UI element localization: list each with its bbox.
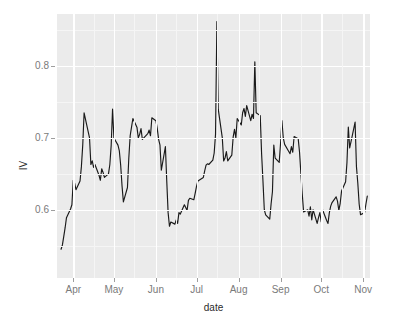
x-axis-tick-labels: AprMayJunJulAugSepOctNov bbox=[0, 284, 396, 298]
x-axis-tick-label: Jun bbox=[136, 284, 176, 296]
gridline-major-vertical bbox=[281, 14, 282, 278]
y-axis-tick-label: 0.7 bbox=[9, 133, 49, 143]
gridline-major-horizontal bbox=[57, 210, 370, 211]
plot-panel bbox=[57, 14, 370, 278]
gridline-major-vertical bbox=[239, 14, 240, 278]
gridline-minor-vertical bbox=[259, 14, 260, 278]
gridline-major-vertical bbox=[156, 14, 157, 278]
gridline-minor-vertical bbox=[301, 14, 302, 278]
gridline-minor-vertical bbox=[176, 14, 177, 278]
x-axis-tick-label: Nov bbox=[343, 284, 383, 296]
gridline-major-vertical bbox=[73, 14, 74, 278]
y-axis-tick-mark bbox=[51, 210, 55, 211]
gridline-minor-vertical bbox=[342, 14, 343, 278]
series-line-iv bbox=[57, 14, 370, 278]
gridline-major-vertical bbox=[114, 14, 115, 278]
y-axis-tick-mark bbox=[51, 66, 55, 67]
x-axis-tick-label: May bbox=[94, 284, 134, 296]
gridline-major-vertical bbox=[197, 14, 198, 278]
x-axis-tick-label: Oct bbox=[301, 284, 341, 296]
gridline-major-vertical bbox=[321, 14, 322, 278]
gridline-minor-horizontal bbox=[57, 174, 370, 175]
gridline-major-horizontal bbox=[57, 138, 370, 139]
gridline-minor-horizontal bbox=[57, 30, 370, 31]
gridline-minor-vertical bbox=[94, 14, 95, 278]
x-axis-tick-label: Sep bbox=[261, 284, 301, 296]
gridline-major-horizontal bbox=[57, 66, 370, 67]
x-axis-tick-mark bbox=[73, 278, 74, 282]
gridline-minor-horizontal bbox=[57, 246, 370, 247]
y-axis-tick-label: 0.8 bbox=[9, 61, 49, 71]
y-axis-tick-mark bbox=[51, 138, 55, 139]
x-axis-tick-mark bbox=[239, 278, 240, 282]
gridline-major-vertical bbox=[363, 14, 364, 278]
x-axis-tick-mark bbox=[281, 278, 282, 282]
x-axis-tick-label: Aug bbox=[219, 284, 259, 296]
x-axis-tick-mark bbox=[197, 278, 198, 282]
gridline-minor-vertical bbox=[217, 14, 218, 278]
x-axis-tick-label: Jul bbox=[177, 284, 217, 296]
chart-container: IV 0.60.70.8 AprMayJunJulAugSepOctNov da… bbox=[0, 0, 396, 330]
x-axis-tick-mark bbox=[321, 278, 322, 282]
y-axis-tick-label: 0.6 bbox=[9, 205, 49, 215]
gridline-minor-vertical bbox=[134, 14, 135, 278]
x-axis-tick-mark bbox=[114, 278, 115, 282]
x-axis-title: date bbox=[57, 302, 370, 313]
gridline-minor-horizontal bbox=[57, 102, 370, 103]
x-axis-tick-label: Apr bbox=[53, 284, 93, 296]
x-axis-tick-mark bbox=[363, 278, 364, 282]
x-axis-tick-mark bbox=[156, 278, 157, 282]
